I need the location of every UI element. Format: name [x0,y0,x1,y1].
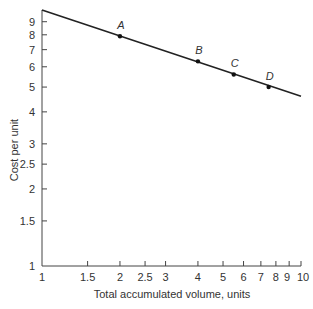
y-tick-label: 8 [29,29,35,41]
y-tick-label: 1.5 [20,215,35,227]
x-tick-label: 2.5 [137,271,152,283]
experience-curve-chart: 11.522.53456789 11.522.5345678910 ABCD C… [0,0,313,309]
x-axis-ticks: 11.522.5345678910 [39,261,309,283]
point-c [232,72,236,76]
y-axis-label: Cost per unit [8,119,20,181]
y-tick-label: 4 [29,106,35,118]
x-tick-label: 8 [273,271,279,283]
y-tick-label: 5 [29,81,35,93]
point-label-b: B [195,44,202,56]
point-b [196,59,200,63]
x-tick-label: 10 [297,271,309,283]
point-label-c: C [231,57,239,69]
point-a [118,34,122,38]
x-tick-label: 7 [258,271,264,283]
y-tick-label: 1 [29,260,35,272]
curve-line [42,10,301,96]
x-tick-label: 3 [163,271,169,283]
y-tick-label: 7 [29,44,35,56]
axes [42,10,301,266]
y-tick-label: 6 [29,61,35,73]
x-tick-label: 1.5 [80,271,95,283]
x-tick-label: 5 [220,271,226,283]
data-series [42,10,301,96]
x-tick-label: 2 [117,271,123,283]
x-tick-label: 9 [284,271,290,283]
point-d [266,85,270,89]
y-tick-label: 2.5 [20,158,35,170]
x-tick-label: 4 [195,271,201,283]
y-axis-ticks: 11.522.53456789 [20,16,47,272]
y-tick-label: 2 [29,183,35,195]
y-tick-label: 3 [29,138,35,150]
x-axis-label: Total accumulated volume, units [94,288,251,300]
x-tick-label: 6 [240,271,246,283]
y-tick-label: 9 [29,16,35,28]
x-tick-label: 1 [39,271,45,283]
point-label-d: D [266,70,274,82]
point-label-a: A [116,19,124,31]
